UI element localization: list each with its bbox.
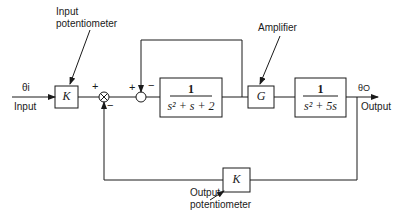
input-symbol: θi: [22, 82, 30, 93]
outer-plant-numerator: 1: [295, 82, 346, 97]
inner-plant-denominator: s² + s + 2: [160, 99, 222, 114]
output-pot-annotation-1: Output: [190, 187, 220, 198]
inner-sum-minus: −: [148, 79, 154, 91]
input-pot-annotation-1: Input: [56, 6, 78, 17]
output-pot-gain: K: [223, 172, 250, 187]
input-pot-annotation-2: potentiometer: [56, 18, 117, 29]
amplifier-gain: G: [248, 89, 274, 104]
block-diagram: θi Input Input potentiometer K + − + − 1…: [0, 0, 405, 214]
outer-plant-denominator: s² + 5s: [295, 99, 346, 114]
inner-sum-plus: +: [129, 81, 135, 93]
inner-sum-junction: [136, 92, 146, 102]
amplifier-annotation: Amplifier: [258, 22, 297, 33]
outer-sum-plus: +: [92, 80, 98, 92]
output-symbol: θO: [358, 83, 370, 94]
output-label: Output: [361, 101, 391, 112]
input-pot-gain: K: [55, 89, 78, 104]
input-label: Input: [14, 101, 36, 112]
output-pot-annotation-2: potentiometer: [190, 199, 251, 210]
outer-sum-minus: −: [107, 99, 113, 111]
inner-plant-numerator: 1: [160, 82, 222, 97]
